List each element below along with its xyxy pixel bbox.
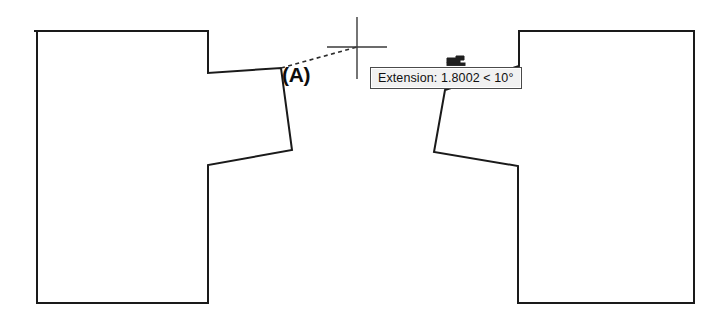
extension-tooltip: Extension: 1.8002 < 10° [370,67,522,89]
left-part-outline[interactable] [35,31,292,303]
snap-marker-glyph [447,56,465,65]
cad-drawing-canvas[interactable]: (A) Extension: 1.8002 < 10° [0,0,728,323]
vertex-label-a: (A) [282,64,310,85]
cad-vector-layer [0,0,728,323]
